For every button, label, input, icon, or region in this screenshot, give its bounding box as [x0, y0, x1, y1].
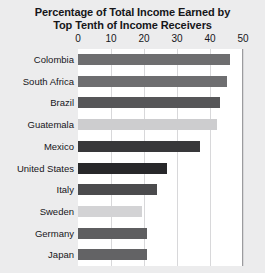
- category-label-germany: Germany: [0, 228, 74, 239]
- bar-colombia: [78, 54, 230, 65]
- category-label-brazil: Brazil: [0, 97, 74, 108]
- bar-row: [78, 201, 243, 223]
- x-tick-label-30: 30: [171, 33, 182, 44]
- chart-title-line-2: Top Tenth of Income Receivers: [18, 19, 247, 32]
- x-tick-label-0: 0: [75, 33, 81, 44]
- x-tick-label-40: 40: [204, 33, 215, 44]
- gridline-50: [243, 49, 244, 266]
- category-label-italy: Italy: [0, 184, 74, 195]
- category-label-south-africa: South Africa: [0, 76, 74, 87]
- bar-south-africa: [78, 76, 227, 87]
- bar-guatemala: [78, 119, 217, 130]
- bar-japan: [78, 249, 147, 260]
- bar-row: [78, 92, 243, 114]
- bar-row: [78, 136, 243, 158]
- bar-chart: Percentage of Total Income Earned by Top…: [0, 0, 265, 273]
- category-label-japan: Japan: [0, 249, 74, 260]
- bar-sweden: [78, 206, 142, 217]
- chart-title-line-1: Percentage of Total Income Earned by: [18, 6, 247, 19]
- category-label-colombia: Colombia: [0, 54, 74, 65]
- category-label-sweden: Sweden: [0, 206, 74, 217]
- bar-germany: [78, 228, 147, 239]
- bar-row: [78, 71, 243, 93]
- category-label-united-states: United States: [0, 163, 74, 174]
- bar-row: [78, 158, 243, 180]
- x-tick-label-20: 20: [138, 33, 149, 44]
- bar-row: [78, 49, 243, 71]
- bars-layer: [78, 49, 243, 266]
- category-label-mexico: Mexico: [0, 141, 74, 152]
- bar-brazil: [78, 97, 220, 108]
- bar-united-states: [78, 163, 167, 174]
- bar-row: [78, 179, 243, 201]
- bar-mexico: [78, 141, 200, 152]
- x-tick-label-50: 50: [237, 33, 248, 44]
- chart-title: Percentage of Total Income Earned by Top…: [18, 6, 247, 32]
- y-axis-category-labels: ColombiaSouth AfricaBrazilGuatemalaMexic…: [0, 49, 74, 266]
- bar-row: [78, 223, 243, 245]
- bar-italy: [78, 184, 157, 195]
- bar-row: [78, 244, 243, 266]
- bar-row: [78, 114, 243, 136]
- x-tick-label-10: 10: [105, 33, 116, 44]
- category-label-guatemala: Guatemala: [0, 119, 74, 130]
- x-axis-tick-labels: 01020304050: [0, 33, 265, 47]
